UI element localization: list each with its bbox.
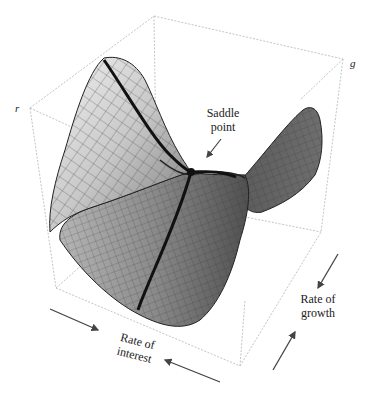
g-axis-label: g [350,56,356,70]
saddle-label-line2: point [200,120,246,134]
interest-arrow-left [165,360,220,382]
growth-line2: growth [292,306,344,320]
saddle-point-marker [187,168,195,176]
saddle-pointer-arrow [207,139,221,157]
growth-arrow-up [273,332,295,370]
interest-arrow-right [50,309,98,330]
saddle-diagram: r g Saddle point Rate of interest Rate o… [0,0,373,398]
r-axis-label: r [15,101,19,115]
saddle-point-label: Saddle point [200,106,246,134]
rate-of-growth-label: Rate of growth [292,292,344,320]
growth-arrow-down [318,254,338,288]
growth-line1: Rate of [292,292,344,306]
diagram-canvas [0,0,373,398]
saddle-label-line1: Saddle [200,106,246,120]
